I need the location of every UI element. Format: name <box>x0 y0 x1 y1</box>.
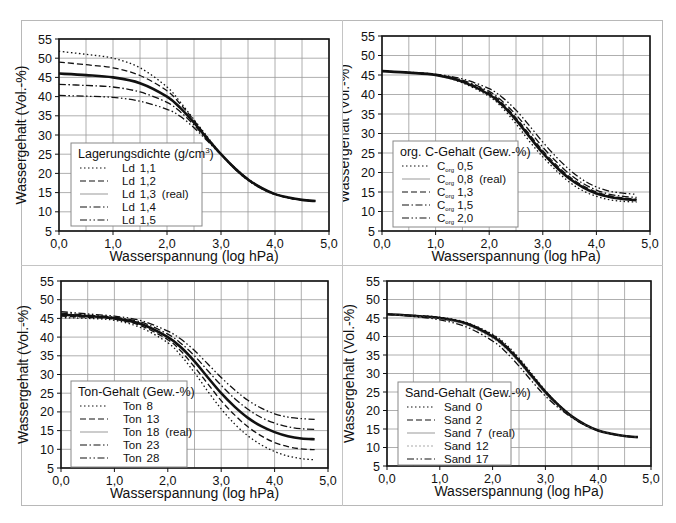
y-tick-label: 30 <box>38 129 52 143</box>
y-tick-label: 15 <box>366 423 380 437</box>
y-tick-label: 40 <box>366 330 380 344</box>
y-tick-label: 55 <box>38 33 52 47</box>
x-tick-label: 5,0 <box>641 237 658 251</box>
y-tick-label: 50 <box>38 52 52 66</box>
y-tick-label: 30 <box>366 367 380 381</box>
y-tick-label: 50 <box>361 49 375 63</box>
y-tick-label: 45 <box>38 71 52 85</box>
y-tick-label: 35 <box>40 349 54 363</box>
y-tick-label: 35 <box>366 349 380 363</box>
chart-panel-bulk-density: 5101520253035404550550,01,02,03,04,05,0W… <box>0 0 343 266</box>
legend-item-label: Ton8 <box>123 400 153 412</box>
x-tick-label: 5,0 <box>319 474 336 488</box>
legend-item-label: Ld1,3(real) <box>122 188 189 200</box>
legend-item-label: Ton28 <box>123 452 159 464</box>
legend-item-label: Corg 1,3 <box>437 186 473 199</box>
legend-item-label: Corg 0,5 <box>437 160 473 173</box>
legend: org. C-Gehalt (Gew.-%)Corg 0,5Corg 0,8(r… <box>393 141 531 227</box>
legend-item-label: Sand0 <box>444 401 482 413</box>
y-tick-label: 50 <box>366 293 380 307</box>
y-tick-label: 40 <box>38 90 52 104</box>
y-tick-label: 50 <box>40 293 54 307</box>
legend-item-label: Sand12 <box>444 440 489 452</box>
x-tick-label: 5,0 <box>320 237 337 251</box>
legend-title: Lagerungsdichte (g/cm3) <box>78 146 214 161</box>
y-tick-label: 35 <box>361 108 375 122</box>
y-tick-label: 45 <box>40 312 54 326</box>
y-tick-label: 30 <box>40 368 54 382</box>
legend-item-label: Ton23 <box>123 439 159 451</box>
chart-panel-sand-content: 5101520253035404550550,01,02,03,04,05,0W… <box>343 266 676 523</box>
legend-item-label: Sand17 <box>444 453 489 465</box>
y-axis-label: Wassergehalt (Vol.-%) <box>343 304 357 443</box>
y-tick-label: 35 <box>38 109 52 123</box>
y-tick-label: 55 <box>366 275 380 289</box>
y-tick-label: 20 <box>366 404 380 418</box>
chart-panel-organic-carbon: 5101520253035404550550,01,02,03,04,05,0W… <box>343 0 676 266</box>
legend-item-label: Ld1,2 <box>122 175 156 187</box>
y-tick-label: 10 <box>366 441 380 455</box>
chart-panel-clay-content: 5101520253035404550550,01,02,03,04,05,0W… <box>0 266 343 523</box>
y-tick-label: 20 <box>40 405 54 419</box>
y-tick-label: 45 <box>361 69 375 83</box>
x-tick-label: 5,0 <box>642 472 659 486</box>
legend-title: Ton-Gehalt (Gew.-%) <box>78 385 195 399</box>
legend: Sand-Gehalt (Gew.-%)Sand0Sand2Sand7(real… <box>398 382 531 465</box>
y-axis-label: Wassergehalt (Vol.-%) <box>15 305 31 444</box>
legend-title: Sand-Gehalt (Gew.-%) <box>405 386 531 400</box>
y-axis-label: Wassergehalt (Vol.-%) <box>343 64 352 203</box>
legend-item-label: Corg 2,0 <box>437 212 473 225</box>
y-tick-label: 10 <box>40 443 54 457</box>
legend-item-label: Ld1,4 <box>122 201 156 213</box>
legend-item-label: Sand7(real) <box>444 427 515 439</box>
x-tick-label: 0,0 <box>378 472 395 486</box>
x-axis-label: Wasserspannung (log hPa) <box>431 248 600 264</box>
legend: Ton-Gehalt (Gew.-%)Ton8Ton13Ton18(real)T… <box>71 381 195 467</box>
legend-item-label: Sand2 <box>444 414 482 426</box>
y-tick-label: 15 <box>361 186 375 200</box>
x-axis-label: Wasserspannung (log hPa) <box>110 485 279 501</box>
x-tick-label: 0,0 <box>373 237 390 251</box>
legend-item-label: Ton18(real) <box>123 426 192 438</box>
legend-item-label: Ld1,1 <box>122 162 156 174</box>
y-axis-label: Wassergehalt (Vol.-%) <box>13 66 29 205</box>
y-tick-label: 25 <box>40 387 54 401</box>
y-tick-label: 25 <box>38 148 52 162</box>
x-tick-label: 0,0 <box>50 237 67 251</box>
y-tick-label: 10 <box>361 205 375 219</box>
y-tick-label: 15 <box>38 186 52 200</box>
x-tick-label: 0,0 <box>52 474 69 488</box>
y-tick-label: 25 <box>366 386 380 400</box>
y-tick-label: 30 <box>361 127 375 141</box>
y-tick-label: 55 <box>40 275 54 289</box>
legend: Lagerungsdichte (g/cm3)Ld1,1Ld1,2Ld1,3(r… <box>71 143 214 226</box>
y-tick-label: 15 <box>40 424 54 438</box>
y-tick-label: 20 <box>38 167 52 181</box>
x-axis-label: Wasserspannung (log hPa) <box>109 248 278 264</box>
legend-item-label: Ld1,5 <box>122 214 156 226</box>
legend-item-label: Ton13 <box>123 413 159 425</box>
y-tick-label: 40 <box>40 331 54 345</box>
y-tick-label: 40 <box>361 88 375 102</box>
y-tick-label: 45 <box>366 312 380 326</box>
legend-item-label: Corg 1,5 <box>437 199 473 212</box>
y-tick-label: 55 <box>361 30 375 44</box>
x-axis-label: Wasserspannung (log hPa) <box>434 483 603 499</box>
y-tick-label: 25 <box>361 147 375 161</box>
y-tick-label: 10 <box>38 205 52 219</box>
y-tick-label: 20 <box>361 166 375 180</box>
legend-title: org. C-Gehalt (Gew.-%) <box>400 145 531 159</box>
